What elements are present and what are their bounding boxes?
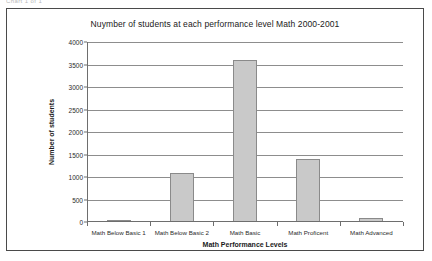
y-tick-mark <box>84 42 87 43</box>
x-tick-mark <box>87 222 88 226</box>
y-tick-mark <box>84 64 87 65</box>
cropped-header-text: Chart 1 of 1 <box>6 0 42 4</box>
chart-frame: Nuymber of students at each performance … <box>6 8 424 251</box>
x-tick-mark <box>403 222 404 226</box>
y-tick-mark <box>84 177 87 178</box>
y-tick-label: 500 <box>72 196 83 203</box>
x-category-label: Math Below Basic 2 <box>155 229 209 236</box>
y-tick-label: 3000 <box>69 84 83 91</box>
plot-area: 05001000150020002500300035004000 Math Be… <box>87 42 403 222</box>
x-category-label: Math Basic <box>230 229 261 236</box>
y-tick-label: 4000 <box>69 39 83 46</box>
y-tick-mark <box>84 154 87 155</box>
x-tick-mark <box>340 222 341 226</box>
bar <box>170 173 194 223</box>
y-tick-mark <box>84 109 87 110</box>
gridline <box>87 42 403 43</box>
x-tick-mark <box>277 222 278 226</box>
bar <box>296 159 320 222</box>
y-tick-mark <box>84 199 87 200</box>
x-tick-mark <box>150 222 151 226</box>
y-tick-label: 2000 <box>69 129 83 136</box>
y-tick-mark <box>84 87 87 88</box>
y-tick-label: 0 <box>79 219 83 226</box>
x-axis-line <box>87 221 403 222</box>
x-category-label: Math Advanced <box>350 229 393 236</box>
x-category-label: Math Proficent <box>288 229 328 236</box>
y-tick-label: 1000 <box>69 174 83 181</box>
x-category-label: Math Below Basic 1 <box>91 229 145 236</box>
y-tick-label: 3500 <box>69 61 83 68</box>
y-axis-line <box>87 42 88 222</box>
bar <box>233 60 257 222</box>
y-tick-label: 1500 <box>69 151 83 158</box>
y-tick-label: 2500 <box>69 106 83 113</box>
y-tick-mark <box>84 132 87 133</box>
x-axis-title: Math Performance Levels <box>87 241 403 248</box>
x-tick-mark <box>213 222 214 226</box>
chart-title: Nuymber of students at each performance … <box>7 19 423 29</box>
y-axis-title: Number of students <box>48 99 55 165</box>
